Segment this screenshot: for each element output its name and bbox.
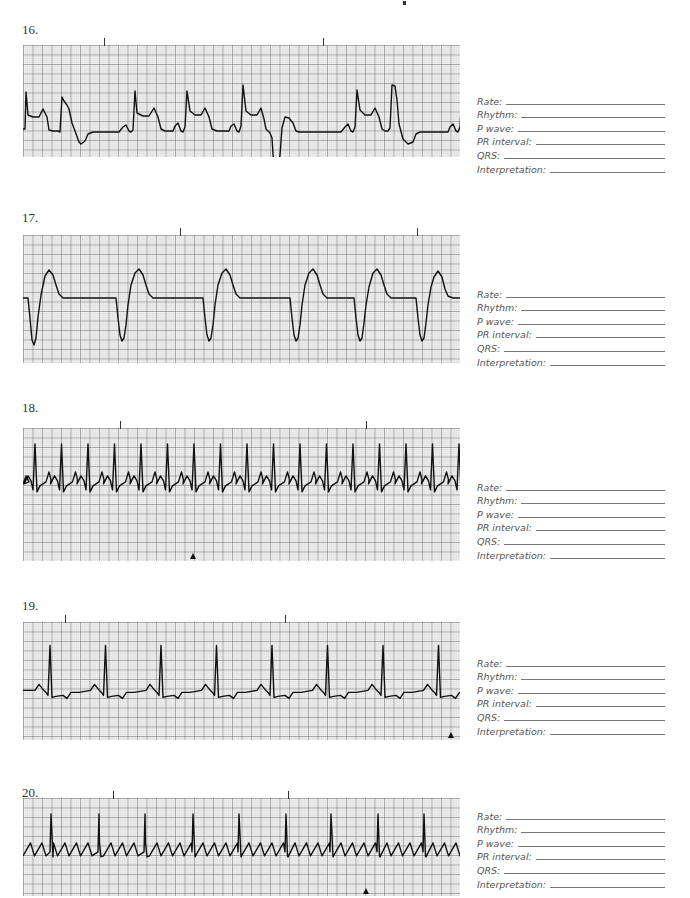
answer-blank-line[interactable] xyxy=(506,297,665,298)
answer-blank-line[interactable] xyxy=(504,720,665,721)
form-row-printerval: PR interval: xyxy=(477,327,665,341)
answer-form: Rate:Rhythm:P wave:PR interval:QRS:Inter… xyxy=(477,808,665,890)
form-row-rhythm: Rhythm: xyxy=(477,822,665,836)
field-label: Interpretation: xyxy=(477,726,546,737)
answer-blank-line[interactable] xyxy=(536,144,665,145)
time-tick-mark xyxy=(113,791,114,799)
answer-blank-line[interactable] xyxy=(550,365,665,366)
form-row-pwave: P wave: xyxy=(477,120,665,134)
answer-blank-line[interactable] xyxy=(536,706,665,707)
answer-blank-line[interactable] xyxy=(521,117,665,118)
answer-blank-line[interactable] xyxy=(550,734,665,735)
ecg-grid-chart xyxy=(23,45,460,157)
form-row-printerval: PR interval: xyxy=(477,849,665,863)
form-row-rhythm: Rhythm: xyxy=(477,300,665,314)
time-tick-mark xyxy=(366,421,367,429)
form-row-interpretation: Interpretation: xyxy=(477,161,665,175)
form-row-pwave: P wave: xyxy=(477,682,665,696)
form-row-rate: Rate: xyxy=(477,479,665,493)
exercise-number: 16. xyxy=(22,22,38,38)
ecg-strip xyxy=(23,235,460,363)
answer-blank-line[interactable] xyxy=(504,351,665,352)
answer-blank-line[interactable] xyxy=(506,104,665,105)
form-row-rate: Rate: xyxy=(477,808,665,822)
field-label: Rhythm: xyxy=(477,824,517,835)
time-tick-mark xyxy=(104,38,105,46)
form-row-pwave: P wave: xyxy=(477,835,665,849)
answer-form: Rate:Rhythm:P wave:PR interval:QRS:Inter… xyxy=(477,286,665,368)
form-row-rate: Rate: xyxy=(477,93,665,107)
form-row-rhythm: Rhythm: xyxy=(477,493,665,507)
field-label: Rhythm: xyxy=(477,495,517,506)
form-row-rhythm: Rhythm: xyxy=(477,669,665,683)
answer-blank-line[interactable] xyxy=(504,544,665,545)
answer-form: Rate:Rhythm:P wave:PR interval:QRS:Inter… xyxy=(477,479,665,561)
answer-blank-line[interactable] xyxy=(521,310,665,311)
field-label: Rate: xyxy=(477,811,502,822)
answer-blank-line[interactable] xyxy=(518,693,665,694)
field-label: PR interval: xyxy=(477,329,532,340)
time-tick-mark xyxy=(288,791,289,799)
ecg-grid-chart xyxy=(23,622,460,740)
ecg-grid-chart xyxy=(23,798,460,896)
field-label: QRS: xyxy=(477,865,500,876)
ecg-grid-chart xyxy=(23,428,460,561)
field-label: P wave: xyxy=(477,838,514,849)
form-row-interpretation: Interpretation: xyxy=(477,547,665,561)
time-tick-mark xyxy=(180,228,181,236)
field-label: Interpretation: xyxy=(477,357,546,368)
form-row-pwave: P wave: xyxy=(477,313,665,327)
field-label: Interpretation: xyxy=(477,164,546,175)
field-label: Interpretation: xyxy=(477,550,546,561)
answer-blank-line[interactable] xyxy=(518,846,665,847)
answer-blank-line[interactable] xyxy=(521,679,665,680)
form-row-qrs: QRS: xyxy=(477,709,665,723)
form-row-interpretation: Interpretation: xyxy=(477,723,665,737)
answer-blank-line[interactable] xyxy=(536,530,665,531)
ecg-grid-chart xyxy=(23,235,460,363)
time-tick-mark xyxy=(65,615,66,623)
field-label: PR interval: xyxy=(477,698,532,709)
answer-blank-line[interactable] xyxy=(506,666,665,667)
form-row-printerval: PR interval: xyxy=(477,520,665,534)
time-tick-mark xyxy=(323,38,324,46)
form-row-pwave: P wave: xyxy=(477,506,665,520)
time-tick-mark xyxy=(417,228,418,236)
field-label: QRS: xyxy=(477,536,500,547)
form-row-qrs: QRS: xyxy=(477,862,665,876)
field-label: P wave: xyxy=(477,316,514,327)
answer-blank-line[interactable] xyxy=(518,131,665,132)
ecg-strip xyxy=(23,622,460,740)
form-row-rhythm: Rhythm: xyxy=(477,107,665,121)
field-label: PR interval: xyxy=(477,522,532,533)
answer-blank-line[interactable] xyxy=(550,887,665,888)
answer-blank-line[interactable] xyxy=(521,503,665,504)
scan-speck xyxy=(403,1,406,5)
form-row-qrs: QRS: xyxy=(477,533,665,547)
answer-form: Rate:Rhythm:P wave:PR interval:QRS:Inter… xyxy=(477,655,665,737)
exercise-number: 18. xyxy=(22,400,38,416)
answer-blank-line[interactable] xyxy=(504,158,665,159)
field-label: Rhythm: xyxy=(477,109,517,120)
form-row-rate: Rate: xyxy=(477,286,665,300)
exercise-number: 19. xyxy=(22,598,38,614)
field-label: PR interval: xyxy=(477,136,532,147)
field-label: QRS: xyxy=(477,712,500,723)
form-row-qrs: QRS: xyxy=(477,147,665,161)
answer-blank-line[interactable] xyxy=(550,172,665,173)
ecg-strip xyxy=(23,428,460,561)
answer-blank-line[interactable] xyxy=(550,558,665,559)
field-label: Rhythm: xyxy=(477,302,517,313)
field-label: QRS: xyxy=(477,343,500,354)
exercise-number: 17. xyxy=(22,210,38,226)
field-label: QRS: xyxy=(477,150,500,161)
answer-blank-line[interactable] xyxy=(536,859,665,860)
answer-blank-line[interactable] xyxy=(521,832,665,833)
answer-blank-line[interactable] xyxy=(518,324,665,325)
field-label: Rhythm: xyxy=(477,671,517,682)
answer-blank-line[interactable] xyxy=(536,337,665,338)
answer-blank-line[interactable] xyxy=(506,490,665,491)
answer-blank-line[interactable] xyxy=(506,819,665,820)
answer-blank-line[interactable] xyxy=(504,873,665,874)
answer-blank-line[interactable] xyxy=(518,517,665,518)
